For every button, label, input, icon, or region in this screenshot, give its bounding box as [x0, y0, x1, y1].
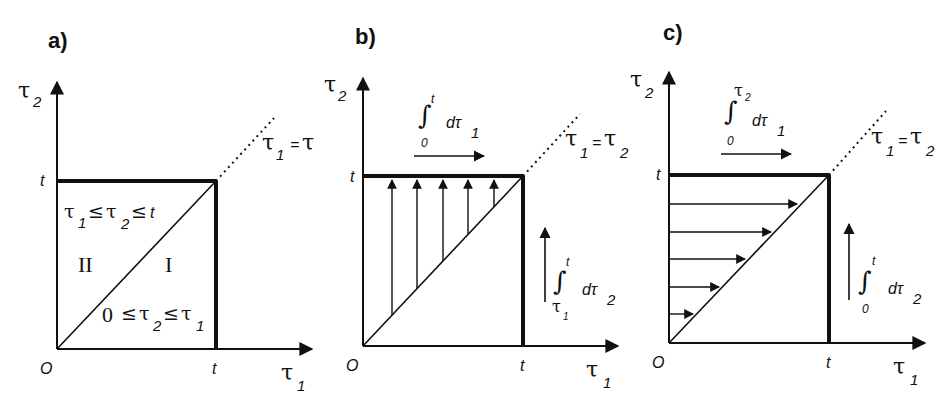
- svg-text:0: 0: [727, 134, 734, 148]
- x-axis-label: τ 1: [586, 357, 611, 391]
- svg-text:2: 2: [606, 291, 616, 308]
- x-tick-t: t: [520, 357, 525, 374]
- svg-text:τ: τ: [604, 126, 616, 151]
- svg-text:2: 2: [152, 317, 162, 334]
- svg-text:1: 1: [580, 144, 588, 161]
- svg-text:≤: ≤: [163, 302, 179, 324]
- y-tick-t: t: [350, 168, 355, 185]
- svg-text:τ: τ: [871, 124, 883, 149]
- svg-text:t: t: [150, 204, 155, 221]
- svg-text:τ: τ: [281, 360, 293, 385]
- panel-a-label: a): [48, 28, 68, 53]
- svg-text:t: t: [566, 255, 570, 269]
- svg-text:=: =: [290, 136, 299, 153]
- svg-text:τ: τ: [630, 67, 642, 92]
- svg-text:2: 2: [644, 84, 654, 101]
- svg-text:∫: ∫: [724, 96, 738, 126]
- svg-text:1: 1: [471, 124, 479, 141]
- panel-c: c) τ 2 τ 1 O t t τ 1 = τ: [630, 20, 935, 388]
- panel-b: b) τ 2 τ 1 O t t τ 1 = τ: [324, 24, 629, 391]
- svg-text:≤: ≤: [88, 200, 104, 222]
- svg-text:τ: τ: [106, 200, 117, 222]
- svg-text:dτ: dτ: [888, 280, 904, 297]
- region-i-label: I: [165, 252, 172, 277]
- x-axis-label: τ 1: [893, 354, 918, 388]
- svg-text:1: 1: [276, 146, 284, 163]
- svg-text:≤: ≤: [121, 302, 137, 324]
- svg-text:2: 2: [619, 144, 629, 161]
- svg-text:τ: τ: [910, 124, 922, 149]
- svg-text:τ: τ: [302, 130, 314, 155]
- y-tick-t: t: [656, 166, 661, 183]
- y-axis-label: τ 2: [324, 72, 347, 104]
- svg-text:≤: ≤: [131, 200, 147, 222]
- svg-text:τ: τ: [181, 302, 192, 324]
- svg-text:τ: τ: [565, 126, 577, 151]
- svg-text:∫: ∫: [553, 266, 567, 296]
- region-i-condition: 0 ≤ τ 2 ≤ τ 1: [102, 302, 204, 334]
- panel-c-label: c): [663, 20, 683, 45]
- svg-text:1: 1: [196, 317, 204, 334]
- svg-text:0: 0: [862, 302, 869, 316]
- diagonal-equation-label: τ 1 = τ 2: [565, 126, 629, 161]
- origin-label: O: [652, 354, 664, 371]
- svg-text:dτ: dτ: [582, 281, 598, 298]
- outer-integral-d-tau1: ∫ t 0 dτ 1: [418, 92, 479, 150]
- x-tick-t: t: [212, 360, 217, 377]
- panel-b-label: b): [355, 24, 376, 49]
- diagonal-equation-label: τ 1 = τ: [262, 130, 314, 163]
- svg-text:τ: τ: [734, 81, 743, 100]
- origin-label: O: [346, 357, 358, 374]
- svg-text:1: 1: [563, 311, 569, 322]
- svg-text:τ: τ: [893, 354, 905, 379]
- region-ii-label: II: [78, 252, 93, 277]
- svg-text:1: 1: [777, 122, 785, 139]
- svg-text:dτ: dτ: [752, 112, 768, 129]
- svg-text:2: 2: [912, 290, 922, 307]
- svg-text:2: 2: [120, 215, 130, 232]
- region-ii-condition: τ 1 ≤ τ 2 ≤ t: [64, 200, 155, 232]
- svg-text:∫: ∫: [418, 100, 432, 130]
- origin-label: O: [40, 360, 52, 377]
- vertical-integration-arrows: [392, 180, 494, 315]
- svg-text:τ: τ: [262, 130, 274, 155]
- svg-text:∫: ∫: [858, 266, 872, 296]
- svg-text:τ: τ: [586, 357, 598, 382]
- svg-text:1: 1: [910, 371, 918, 388]
- y-axis-label: τ 2: [18, 78, 42, 110]
- svg-text:1: 1: [78, 214, 86, 231]
- svg-text:=: =: [898, 132, 907, 149]
- x-axis-label: τ 1: [281, 360, 305, 394]
- horizontal-integration-arrows: [669, 204, 797, 314]
- svg-text:dτ: dτ: [446, 114, 462, 131]
- svg-text:=: =: [592, 134, 601, 151]
- inner-integral-d-tau2: ∫ t τ 1 dτ 2: [552, 255, 616, 322]
- svg-text:2: 2: [925, 142, 935, 159]
- panel-a: a) τ 2 τ 1 O t t τ 1 = τ τ 1: [18, 28, 314, 394]
- svg-text:0: 0: [421, 136, 428, 150]
- svg-text:1: 1: [603, 374, 611, 391]
- y-tick-t: t: [40, 172, 45, 189]
- svg-text:2: 2: [32, 93, 42, 110]
- svg-text:2: 2: [744, 92, 751, 103]
- svg-text:2: 2: [337, 87, 347, 104]
- svg-text:1: 1: [297, 377, 305, 394]
- outer-integral-d-tau1: ∫ τ 2 0 dτ 1: [724, 81, 785, 148]
- svg-text:τ: τ: [552, 297, 561, 316]
- svg-text:1: 1: [886, 142, 894, 159]
- svg-text:τ: τ: [139, 302, 150, 324]
- y-axis-label: τ 2: [630, 67, 654, 101]
- integration-order-diagram: a) τ 2 τ 1 O t t τ 1 = τ τ 1: [0, 0, 951, 407]
- inner-integral-d-tau2: ∫ t 0 dτ 2: [858, 254, 922, 316]
- svg-text:t: t: [431, 92, 435, 106]
- diagonal-equation-label: τ 1 = τ 2: [871, 124, 935, 159]
- svg-text:τ: τ: [18, 78, 30, 103]
- svg-text:τ: τ: [64, 200, 75, 222]
- x-tick-t: t: [826, 354, 831, 371]
- svg-text:0: 0: [102, 302, 113, 327]
- svg-text:t: t: [872, 254, 876, 268]
- svg-text:τ: τ: [324, 72, 336, 97]
